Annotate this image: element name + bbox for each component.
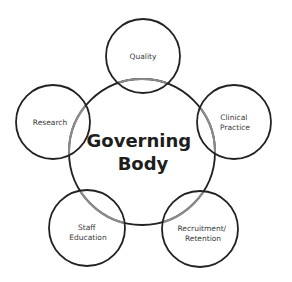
staff-label-line-1: Staff — [78, 223, 96, 232]
staff-label-line-2: Education — [69, 233, 107, 242]
svg-text:Quality: Quality — [130, 52, 157, 61]
svg-text:Governing Body: Governing Body — [87, 130, 198, 174]
recruitment-label-line-2: Retention — [185, 234, 221, 243]
quality-label: Quality — [130, 52, 157, 61]
svg-text:Staff Education: Staff Education — [69, 223, 107, 242]
center-label-line-2: Body — [118, 153, 169, 174]
svg-text:Recruitment/ Retention: Recruitment/ Retention — [177, 224, 228, 243]
governance-diagram: Governing Body Quality Clinical Practice… — [0, 0, 292, 282]
svg-text:Clinical Practice: Clinical Practice — [220, 113, 250, 132]
clinical-label-line-2: Practice — [220, 123, 250, 132]
center-label-line-1: Governing — [87, 130, 192, 151]
svg-text:Research: Research — [33, 118, 68, 127]
research-label: Research — [33, 118, 68, 127]
recruitment-label-line-1: Recruitment/ — [177, 224, 226, 233]
clinical-label-line-1: Clinical — [220, 113, 247, 122]
